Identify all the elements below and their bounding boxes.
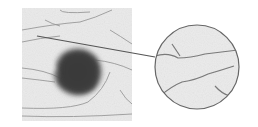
figure (0, 0, 258, 127)
skin-photo (22, 8, 132, 121)
magnified-inset (150, 20, 245, 115)
